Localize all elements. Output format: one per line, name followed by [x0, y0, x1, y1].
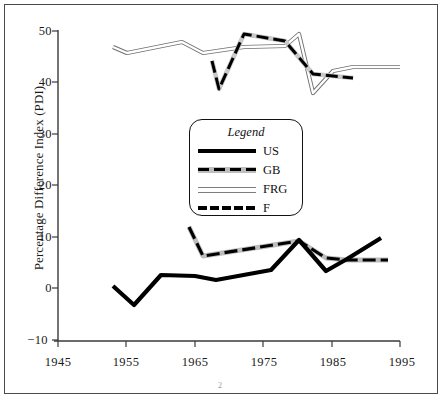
x-tick-marks [58, 341, 400, 347]
legend-swatch-frg-icon [198, 183, 256, 195]
y-tick-marks [52, 31, 58, 340]
legend-label-gb: GB [263, 164, 280, 176]
legend-swatch-gb-icon [198, 164, 256, 176]
legend-item-gb: GB [198, 161, 302, 178]
legend-label-f: F [263, 202, 270, 214]
legend-label-us: US [263, 145, 279, 157]
legend-swatch-f-icon [198, 202, 256, 214]
legend-item-f: F [198, 199, 302, 216]
series-line-gb-upper [212, 34, 353, 89]
legend-title: Legend [190, 125, 302, 140]
figure-container: Percentage Difference Index (PDI) 50 40 … [0, 0, 442, 398]
series-line-frg [113, 34, 400, 93]
legend-label-frg: FRG [263, 183, 287, 195]
legend: Legend US GB FRG F [189, 119, 303, 216]
legend-item-frg: FRG [198, 180, 302, 197]
legend-swatch-us-icon [198, 145, 256, 157]
bottom-page-mark: 2 [218, 381, 222, 390]
series-line-gb [189, 227, 388, 260]
legend-item-us: US [198, 142, 302, 159]
